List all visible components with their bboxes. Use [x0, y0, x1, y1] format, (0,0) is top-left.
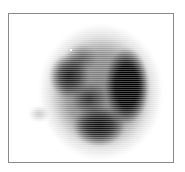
scan-caption [22, 164, 142, 172]
scan-uptake-region [9, 14, 173, 162]
scan-frame [8, 13, 174, 163]
bright-speck [70, 49, 72, 51]
